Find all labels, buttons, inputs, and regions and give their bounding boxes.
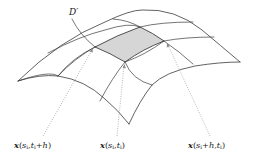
label-x-si-ti-plus-h: x(si,ti+h) xyxy=(14,141,51,151)
close-paren: ) xyxy=(122,140,125,150)
label-x-si-ti: x(si,ti) xyxy=(100,141,125,151)
close-paren: ) xyxy=(48,140,51,150)
pointer-right xyxy=(167,43,210,136)
grid-curve-t1 xyxy=(58,47,95,76)
surface-label: D′ xyxy=(69,8,78,17)
surface-diagram xyxy=(0,0,254,157)
vector-x: x xyxy=(188,140,193,150)
grid-curve-s1b xyxy=(140,22,193,27)
sep: +h, xyxy=(202,140,217,150)
vector-x: x xyxy=(100,140,105,150)
surface-front-right-edge xyxy=(129,62,240,124)
grid-curve-t4 xyxy=(125,62,152,85)
shaded-patch xyxy=(95,27,164,62)
vector-x: x xyxy=(14,140,19,150)
pointer-center xyxy=(117,64,126,136)
grid-curve-s2 xyxy=(58,47,95,76)
surface-front-left-edge xyxy=(18,76,129,124)
grid-curve-s2b xyxy=(164,37,214,41)
grid-curve-t3 xyxy=(100,62,125,101)
grid-curve-t2 xyxy=(72,19,95,47)
close-paren: ) xyxy=(222,140,225,150)
tail: +h xyxy=(36,140,48,150)
grid-curve-t5 xyxy=(164,41,193,64)
pointer-left xyxy=(43,48,93,136)
label-x-si-plus-h-ti: x(si+h,ti) xyxy=(188,141,225,151)
